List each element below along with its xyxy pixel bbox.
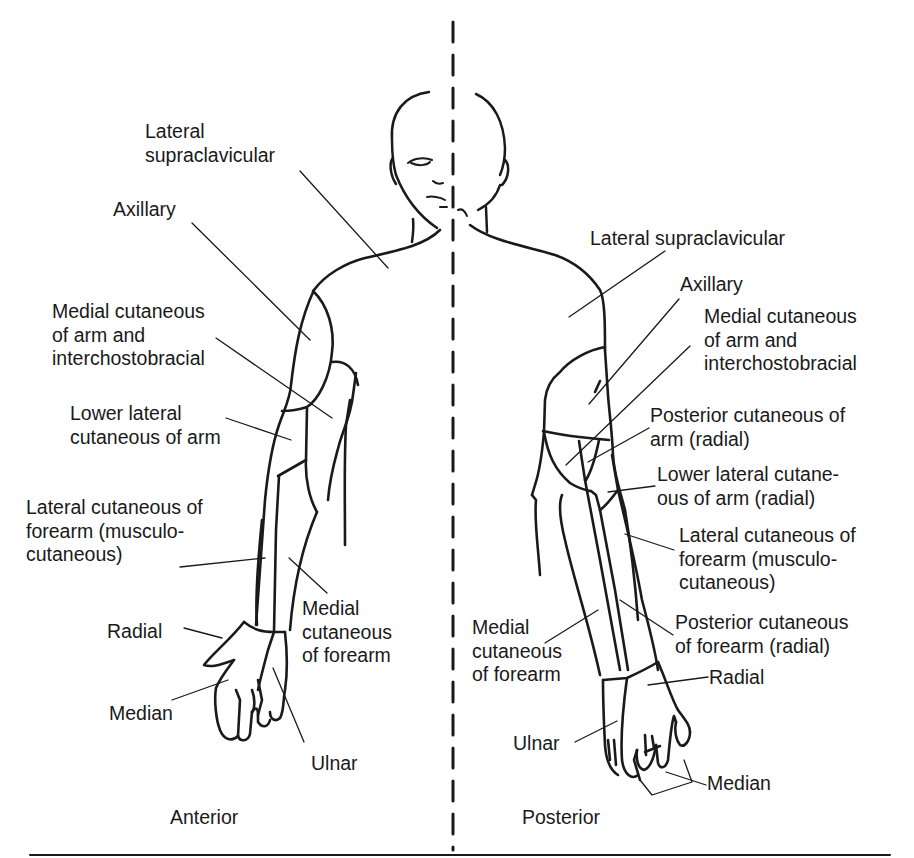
label-posterior-lateral-cutaneous-forearm: Lateral cutaneous of forearm (musculo- c… [679,524,856,595]
label-posterior-posterior-cutaneous-arm: Posterior cutaneous of arm (radial) [650,404,845,451]
head-outline [391,92,509,242]
label-posterior-radial: Radial [709,666,764,690]
label-posterior-ulnar: Ulnar [513,732,560,756]
label-anterior-median: Median [109,702,173,726]
label-anterior-lateral-cutaneous-forearm: Lateral cutaneous of forearm (musculo- c… [26,496,203,567]
view-caption-posterior: Posterior [522,806,600,830]
label-posterior-medial-cutaneous-forearm: Medial cutaneous of forearm [472,616,562,687]
label-anterior-axillary: Axillary [113,198,176,222]
label-anterior-ulnar: Ulnar [311,752,358,776]
label-anterior-medial-cutaneous-arm: Medial cutaneous of arm and interchostob… [52,300,205,371]
label-posterior-median: Median [707,772,771,796]
label-posterior-lower-lateral-cutaneous-arm: Lower lateral cutane- ous of arm (radial… [657,463,839,510]
label-anterior-lateral-supraclavicular: Lateral supraclavicular [145,120,275,167]
label-anterior-radial: Radial [107,620,162,644]
label-posterior-axillary: Axillary [680,273,743,297]
label-anterior-medial-cutaneous-forearm: Medial cutaneous of forearm [302,597,392,668]
label-posterior-posterior-cutaneous-forearm: Posterior cutaneous of forearm (radial) [675,611,848,658]
label-posterior-lateral-supraclavicular: Lateral supraclavicular [590,227,785,251]
label-posterior-medial-cutaneous-arm: Medial cutaneous of arm and interchostob… [704,305,857,376]
label-anterior-lower-lateral-cutaneous-arm: Lower lateral cutaneous of arm [70,402,221,449]
cutaneous-nerve-diagram: Lateral supraclavicular Axillary Medial … [0,0,914,858]
view-caption-anterior: Anterior [170,806,238,830]
